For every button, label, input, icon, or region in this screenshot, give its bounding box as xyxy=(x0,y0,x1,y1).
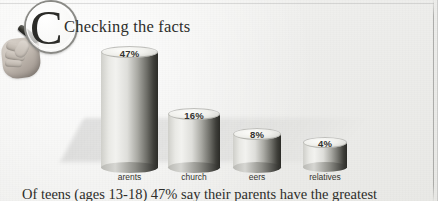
bar-base-ellipse xyxy=(303,162,347,172)
chart-category-label: relatives xyxy=(296,172,354,182)
body-caption-text: Of teens (ages 13-18) 47% say their pare… xyxy=(22,186,422,201)
bar-value-label: 47% xyxy=(101,48,158,59)
chart-bar: 8% xyxy=(233,128,281,168)
bar-value-label: 8% xyxy=(233,129,281,140)
bar-body xyxy=(101,52,158,168)
chart-category-label: church xyxy=(166,172,222,182)
bar-value-label: 16% xyxy=(168,110,220,121)
chart-category-label: arents xyxy=(101,172,158,182)
chart-bar: 4% xyxy=(303,137,347,168)
cylinder-bar-chart: 47% 16% 8% 4% arents church xyxy=(0,0,438,201)
bar-value-label: 4% xyxy=(303,138,347,149)
chart-category-label: eers xyxy=(233,172,281,182)
bar-body xyxy=(168,114,220,168)
chart-bar: 16% xyxy=(168,108,220,168)
scanned-page: C Checking the facts 47% 16% 8% xyxy=(0,0,438,201)
chart-bar: 47% xyxy=(101,46,158,168)
